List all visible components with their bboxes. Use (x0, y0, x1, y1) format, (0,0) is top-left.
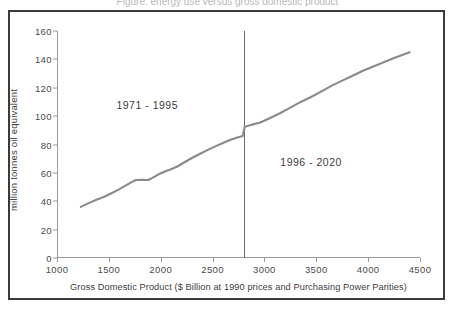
y-tick-label: 140 (35, 54, 52, 65)
x-tick-label: 2000 (149, 264, 172, 275)
data-series-svg (57, 31, 420, 258)
chart-figure: million tonnes oil equivalent Gross Dome… (0, 0, 455, 312)
y-tick-label: 80 (41, 139, 52, 150)
x-tick-mark (109, 258, 110, 262)
x-axis-label: Gross Domestic Product ($ Billion at 199… (57, 282, 420, 292)
x-tick-label: 1500 (97, 264, 120, 275)
x-tick-mark (213, 258, 214, 262)
x-tick-mark (316, 258, 317, 262)
y-tick-label: 120 (35, 82, 52, 93)
period-projected: 1996 - 2020 (280, 156, 342, 168)
x-tick-label: 1000 (46, 264, 69, 275)
y-tick-label: 40 (41, 196, 52, 207)
x-tick-mark (420, 258, 421, 262)
x-tick-mark (57, 258, 58, 262)
y-axis-label: million tonnes oil equivalent (8, 89, 19, 211)
y-tick-label: 20 (41, 224, 52, 235)
x-tick-label: 2500 (201, 264, 224, 275)
plot-area: 020406080100120140160 100015002000250030… (57, 31, 420, 258)
y-tick-label: 160 (35, 26, 52, 37)
y-tick-label: 0 (46, 253, 52, 264)
x-tick-label: 4500 (409, 264, 432, 275)
period-historical: 1971 - 1995 (116, 99, 178, 111)
x-tick-mark (368, 258, 369, 262)
x-tick-label: 3000 (253, 264, 276, 275)
y-tick-label: 100 (35, 111, 52, 122)
x-tick-mark (264, 258, 265, 262)
x-tick-label: 3500 (305, 264, 328, 275)
x-tick-mark (161, 258, 162, 262)
energy-consumption-line (81, 52, 410, 207)
y-tick-label: 60 (41, 167, 52, 178)
x-tick-label: 4000 (357, 264, 380, 275)
